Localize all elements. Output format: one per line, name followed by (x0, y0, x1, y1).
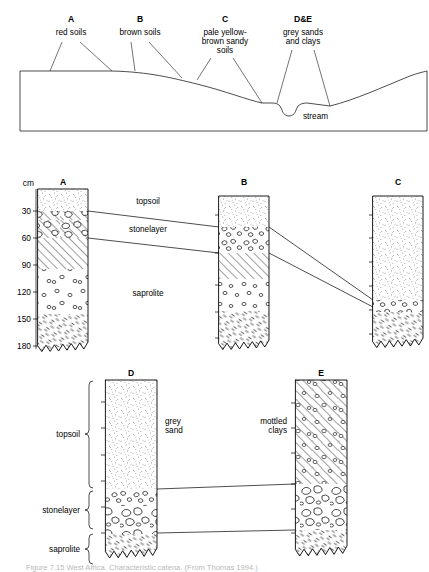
horizon-label-saprolite-mid: saprolite (133, 289, 164, 298)
horizon-label-stonelayer-mid: stonelayer (129, 225, 167, 234)
horizon-label-topsoil-bot: topsoil (56, 430, 80, 439)
profile-E-material-line2: clays (268, 426, 287, 435)
profile-code-E: E (318, 368, 324, 378)
profile-D-fill (105, 380, 157, 566)
depth-tick-30: 30 (22, 206, 32, 216)
profile-code-B: B (241, 177, 247, 187)
profile-D-material-line2: sand (165, 426, 183, 435)
profile-B-fill (219, 196, 269, 351)
profile-C-fill (373, 196, 423, 350)
depth-tick-120: 120 (17, 287, 31, 297)
horizon-label-saprolite-bot: saprolite (49, 545, 80, 554)
depth-tick-180: 180 (17, 341, 31, 351)
stream-label: stream (303, 112, 328, 121)
profile-E-material-line1: mottled (260, 417, 287, 426)
depth-axis-unit: cm (23, 178, 34, 188)
catena-name-DE-line1: grey sands (283, 28, 323, 37)
depth-tick-150: 150 (17, 314, 31, 324)
catena-name-C-line3: soils (217, 46, 233, 55)
profile-D-material-line1: grey (165, 417, 182, 426)
catena-name-C-line1: pale yellow- (203, 28, 247, 37)
horizon-label-topsoil-mid: topsoil (136, 197, 160, 206)
profile-E-fill (295, 380, 347, 566)
horizon-label-stonelayer-bot: stonelayer (42, 506, 80, 515)
catena-code-C: C (222, 14, 228, 24)
catena-code-DE: D&E (294, 14, 312, 24)
depth-tick-60: 60 (22, 233, 32, 243)
catena-name-C-line2: brown sandy (202, 37, 249, 46)
figure-caption: Figure 7.15 West Africa. Characteristic … (26, 563, 258, 572)
catena-name-A-line1: red soils (56, 28, 87, 37)
catena-code-B: B (137, 14, 143, 24)
figure-root: A B C D&E red soils brown soils pale yel… (0, 0, 429, 572)
profile-code-A: A (60, 177, 66, 187)
catena-code-A: A (68, 14, 74, 24)
profile-code-C: C (395, 177, 401, 187)
profile-code-D: D (128, 368, 134, 378)
profile-A-fill (38, 189, 88, 352)
soil-catena-figure: A B C D&E red soils brown soils pale yel… (0, 0, 429, 572)
catena-name-DE-line2: and clays (286, 37, 321, 46)
catena-name-B-line1: brown soils (120, 28, 161, 37)
depth-tick-90: 90 (22, 260, 32, 270)
